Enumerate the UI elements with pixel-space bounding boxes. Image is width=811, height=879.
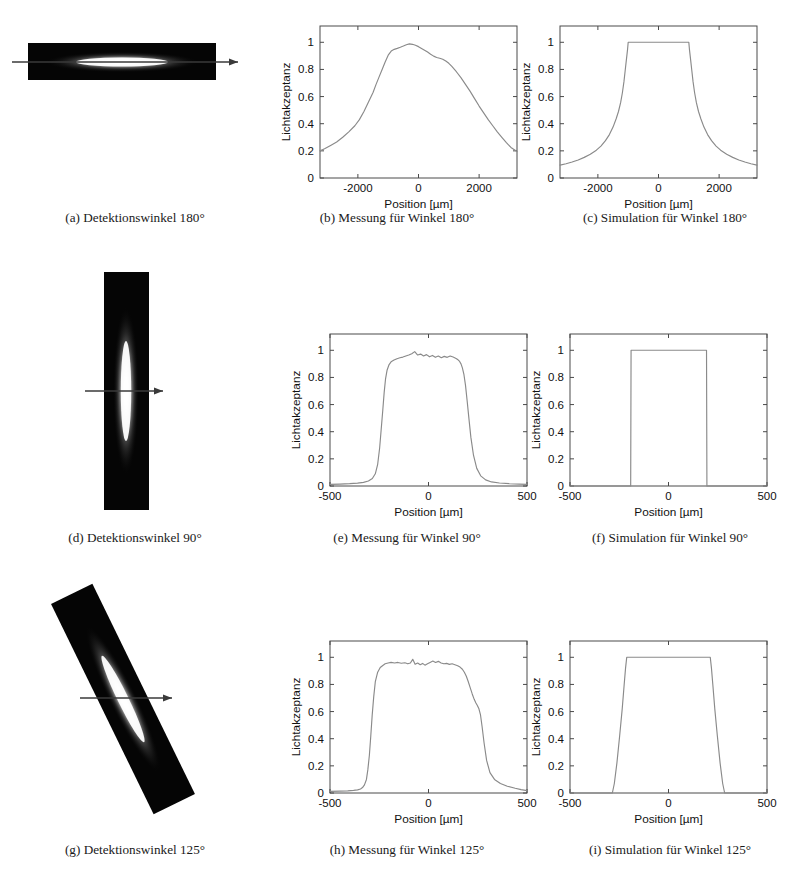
chart-f-simulation-90: -500050000.20.40.60.81Position [µm]Licht… — [522, 316, 772, 516]
y-ticklabel: 0 — [548, 172, 554, 184]
photo-panel-a — [0, 0, 270, 200]
beam-photo-vertical — [0, 258, 270, 523]
x-axis-label: Position [µm] — [624, 197, 692, 211]
axes-frame — [330, 334, 527, 486]
y-ticklabel: 0.2 — [298, 145, 314, 157]
y-ticklabel: 0.6 — [548, 399, 564, 411]
y-ticklabel: 0.4 — [308, 733, 325, 745]
y-ticklabel: 0.6 — [548, 706, 564, 718]
y-ticklabel: 0.2 — [308, 453, 324, 465]
rotated-detector-group — [51, 584, 195, 814]
figure-container: (a) Detektionswinkel 180° -20000200000.2… — [0, 0, 811, 879]
plot-panel-f: -500050000.20.40.60.81Position [µm]Licht… — [522, 316, 772, 516]
x-ticklabel: 2000 — [706, 182, 732, 194]
data-curve — [570, 350, 767, 486]
y-ticklabel: 0.2 — [538, 145, 554, 157]
y-ticklabel: 0.2 — [308, 760, 324, 772]
data-curve — [330, 659, 527, 791]
caption-e: (e) Messung für Winkel 90° — [282, 530, 532, 546]
caption-i: (i) Simulation für Winkel 125° — [540, 842, 800, 858]
y-ticklabel: 0.6 — [298, 91, 314, 103]
x-axis-label: Position [µm] — [384, 197, 452, 211]
plot-panel-b: -20000200000.20.40.60.81Position [µm]Lic… — [272, 8, 522, 208]
caption-h: (h) Messung für Winkel 125° — [282, 842, 532, 858]
y-ticklabel: 0.8 — [308, 678, 324, 690]
data-curve — [560, 42, 757, 165]
figure-row-125: (g) Detektionswinkel 125° -500050000.20.… — [0, 568, 811, 879]
figure-row-180: (a) Detektionswinkel 180° -20000200000.2… — [0, 0, 811, 250]
axes-frame — [570, 641, 767, 793]
data-curve — [320, 44, 517, 152]
y-ticklabel: 1 — [558, 344, 564, 356]
x-ticklabel: 2000 — [466, 182, 492, 194]
caption-g: (g) Detektionswinkel 125° — [0, 842, 270, 858]
y-ticklabel: 1 — [548, 36, 554, 48]
y-ticklabel: 0.8 — [308, 371, 324, 383]
x-ticklabel: 0 — [665, 490, 671, 502]
photo-panel-d — [0, 258, 270, 523]
x-ticklabel: 500 — [757, 797, 776, 809]
plot-panel-i: -500050000.20.40.60.81Position [µm]Licht… — [522, 623, 772, 823]
y-ticklabel: 1 — [308, 36, 314, 48]
axes-frame — [570, 334, 767, 486]
x-ticklabel: 0 — [655, 182, 661, 194]
chart-h-measurement-125: -500050000.20.40.60.81Position [µm]Licht… — [282, 623, 532, 823]
x-ticklabel: 0 — [425, 490, 431, 502]
beam-photo-diagonal — [0, 568, 270, 833]
chart-i-simulation-125: -500050000.20.40.60.81Position [µm]Licht… — [522, 623, 772, 823]
caption-d: (d) Detektionswinkel 90° — [0, 530, 270, 546]
plot-panel-c: -20000200000.20.40.60.81Position [µm]Lic… — [512, 8, 762, 208]
x-axis-label: Position [µm] — [394, 812, 462, 826]
axes-frame — [320, 26, 517, 178]
plot-panel-e: -500050000.20.40.60.81Position [µm]Licht… — [282, 316, 532, 516]
y-ticklabel: 1 — [318, 651, 324, 663]
beam-photo-horizontal — [0, 0, 270, 200]
y-ticklabel: 0.8 — [548, 678, 564, 690]
y-ticklabel: 1 — [318, 344, 324, 356]
caption-a: (a) Detektionswinkel 180° — [0, 210, 270, 226]
y-axis-label: Lichtakzeptanz — [289, 678, 303, 757]
caption-c: (c) Simulation für Winkel 180° — [530, 210, 800, 226]
y-ticklabel: 0 — [318, 480, 324, 492]
chart-e-measurement-90: -500050000.20.40.60.81Position [µm]Licht… — [282, 316, 532, 516]
figure-row-90: (d) Detektionswinkel 90° -500050000.20.4… — [0, 258, 811, 558]
direction-arrow-head — [154, 388, 163, 395]
y-ticklabel: 0.4 — [308, 426, 325, 438]
y-ticklabel: 0.8 — [548, 371, 564, 383]
direction-arrow-head — [163, 695, 172, 702]
x-ticklabel: 0 — [665, 797, 671, 809]
y-ticklabel: 0.6 — [538, 91, 554, 103]
y-ticklabel: 0.6 — [308, 399, 324, 411]
y-axis-label: Lichtakzeptanz — [289, 371, 303, 450]
y-ticklabel: 0.8 — [298, 63, 314, 75]
plot-panel-h: -500050000.20.40.60.81Position [µm]Licht… — [282, 623, 532, 823]
y-ticklabel: 0 — [318, 787, 324, 799]
chart-b-measurement-180: -20000200000.20.40.60.81Position [µm]Lic… — [272, 8, 522, 208]
data-curve — [330, 352, 527, 485]
photo-panel-g — [0, 568, 270, 833]
y-ticklabel: 0 — [558, 787, 564, 799]
x-axis-label: Position [µm] — [634, 812, 702, 826]
y-ticklabel: 0.4 — [298, 118, 315, 130]
y-ticklabel: 1 — [558, 651, 564, 663]
data-curve — [570, 657, 767, 793]
direction-arrow-head — [229, 59, 238, 66]
x-axis-label: Position [µm] — [634, 505, 702, 519]
y-ticklabel: 0.2 — [548, 453, 564, 465]
y-ticklabel: 0 — [558, 480, 564, 492]
x-ticklabel: -2000 — [343, 182, 372, 194]
caption-f: (f) Simulation für Winkel 90° — [540, 530, 800, 546]
caption-b: (b) Messung für Winkel 180° — [272, 210, 522, 226]
x-ticklabel: 500 — [757, 490, 776, 502]
y-ticklabel: 0 — [308, 172, 314, 184]
y-ticklabel: 0.6 — [308, 706, 324, 718]
y-ticklabel: 0.8 — [538, 63, 554, 75]
y-axis-label: Lichtakzeptanz — [519, 63, 533, 142]
x-ticklabel: 0 — [415, 182, 421, 194]
y-ticklabel: 0.4 — [548, 733, 565, 745]
y-axis-label: Lichtakzeptanz — [529, 371, 543, 450]
x-axis-label: Position [µm] — [394, 505, 462, 519]
x-ticklabel: -2000 — [583, 182, 612, 194]
y-axis-label: Lichtakzeptanz — [279, 63, 293, 142]
y-ticklabel: 0.2 — [548, 760, 564, 772]
